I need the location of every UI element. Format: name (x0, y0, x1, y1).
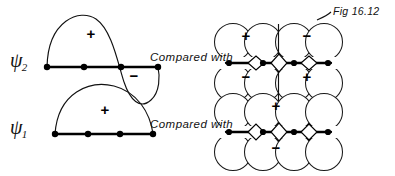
psi1-subscript: 1 (22, 128, 28, 140)
psi1-orbital-sign-bottom: − (268, 140, 284, 155)
orbital-atom-dot (291, 60, 297, 66)
psi2-subscript: 2 (22, 61, 28, 73)
figure-container: ψ2 ψ1 Compared with Compared with Fig 16… (0, 0, 395, 176)
psi2-minus-sign: − (126, 68, 142, 83)
caption-leader-stroke (317, 12, 331, 20)
psi1-orbital-sign-top: + (268, 98, 284, 113)
psi2-plus-sign: + (83, 26, 99, 41)
psi2-atom-dot (155, 64, 161, 70)
orbital-lobe-lower (306, 134, 343, 171)
figure-drawing (0, 0, 395, 176)
figure-caption: Fig 16.12 (333, 6, 379, 17)
psi1-atom-dot (150, 131, 156, 137)
psi2-symbol: ψ (10, 49, 23, 71)
orbital-atom-dot (291, 129, 297, 135)
orbital-atom-dot (260, 60, 266, 66)
orbital-atom-dot (325, 60, 331, 66)
psi2-orbital-sign-bottom-left: − (238, 69, 254, 84)
psi2-orbital-sign-top-left: + (238, 28, 254, 43)
psi2-atom-dot (118, 64, 124, 70)
compared-with-label-lower: Compared with (150, 119, 233, 131)
psi1-label: ψ1 (10, 117, 28, 140)
compared-with-label-upper: Compared with (150, 52, 233, 64)
psi2-wavefunction-plot (44, 15, 161, 104)
psi2-orbital-sign-top-right: − (299, 28, 315, 43)
psi1-symbol: ψ (10, 116, 23, 138)
orbital-atom-dot (260, 129, 266, 135)
psi1-atom-dot (117, 131, 123, 137)
psi2-orbital-sign-bottom-right: + (299, 69, 315, 84)
orbital-lobe-upper (306, 94, 343, 131)
psi2-label: ψ2 (10, 50, 28, 73)
psi1-plus-sign: + (97, 102, 113, 117)
psi1-atom-dot (52, 131, 58, 137)
orbital-atom-dot (325, 129, 331, 135)
psi1-atom-dot (85, 131, 91, 137)
psi2-atom-dot (44, 64, 50, 70)
psi2-atom-dot (81, 64, 87, 70)
